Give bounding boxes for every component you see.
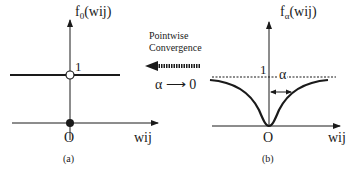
panel-a-function-label: f0(wij) <box>75 5 111 21</box>
convergence-arrow <box>145 61 200 71</box>
panel-b-graph <box>210 22 340 126</box>
panel-b-alpha-label: α <box>278 68 287 82</box>
panel-b-x-label: wij <box>328 131 346 145</box>
panel-a-filled-point <box>66 119 74 127</box>
panel-a-y-tick: 1 <box>75 60 82 73</box>
alpha-limit-label: α ⟶ 0 <box>155 78 196 92</box>
convergence-label: Pointwise Convergence <box>149 30 202 54</box>
panel-a-caption: (a) <box>63 154 74 164</box>
panel-a-open-point <box>66 71 74 79</box>
convergence-label-line2: Convergence <box>149 42 202 54</box>
panel-a-origin: O <box>64 131 74 145</box>
panel-a-graph <box>10 20 158 140</box>
panel-a-x-label: wij <box>134 131 152 145</box>
panel-b-origin: O <box>263 131 273 145</box>
convergence-label-line1: Pointwise <box>149 30 202 42</box>
panel-b-caption: (b) <box>262 154 274 164</box>
panel-b-y-tick: 1 <box>260 63 267 76</box>
panel-b-function-label: fα(wij) <box>280 5 317 21</box>
